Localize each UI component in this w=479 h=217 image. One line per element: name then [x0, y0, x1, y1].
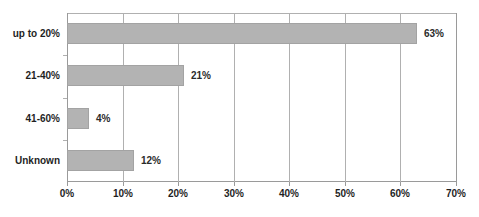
bar	[67, 108, 89, 129]
bar-value-label: 4%	[96, 108, 110, 129]
bar-value-label: 12%	[141, 150, 161, 171]
x-axis-tick-label: 60%	[390, 188, 410, 199]
x-axis-tick-label: 20%	[168, 188, 188, 199]
bar	[67, 150, 134, 171]
category-label: 21-40%	[26, 55, 60, 97]
bar-slot: 21%	[67, 55, 456, 97]
bar-chart: 63%21%4%12% up to 20%21-40%41-60%Unknown…	[0, 0, 479, 217]
category-label: up to 20%	[13, 13, 60, 55]
category-label: 41-60%	[26, 98, 60, 140]
x-axis-tick-label: 70%	[446, 188, 466, 199]
x-axis-tick-mark	[456, 182, 457, 186]
x-axis-tick-mark	[67, 182, 68, 186]
bar-slot: 4%	[67, 98, 456, 140]
x-axis-tick-label: 0%	[60, 188, 74, 199]
x-axis-tick-mark	[123, 182, 124, 186]
y-axis-tick	[63, 55, 67, 56]
bar-slot: 12%	[67, 140, 456, 182]
gridline-70	[456, 13, 457, 182]
x-axis-tick-label: 40%	[279, 188, 299, 199]
bar-value-label: 21%	[191, 65, 211, 86]
bar-value-label: 63%	[424, 23, 444, 44]
y-axis-tick	[63, 98, 67, 99]
x-axis-tick-label: 30%	[224, 188, 244, 199]
x-axis-tick-mark	[178, 182, 179, 186]
x-axis-tick-label: 50%	[335, 188, 355, 199]
bar-slot: 63%	[67, 13, 456, 55]
category-label: Unknown	[15, 140, 60, 182]
x-axis-tick-label: 10%	[113, 188, 133, 199]
x-axis-tick-mark	[400, 182, 401, 186]
plot-area: 63%21%4%12%	[67, 13, 456, 182]
x-axis-tick-mark	[234, 182, 235, 186]
x-axis-tick-mark	[345, 182, 346, 186]
y-axis-tick	[63, 140, 67, 141]
bar	[67, 65, 184, 86]
x-axis-tick-mark	[289, 182, 290, 186]
bar	[67, 23, 417, 44]
